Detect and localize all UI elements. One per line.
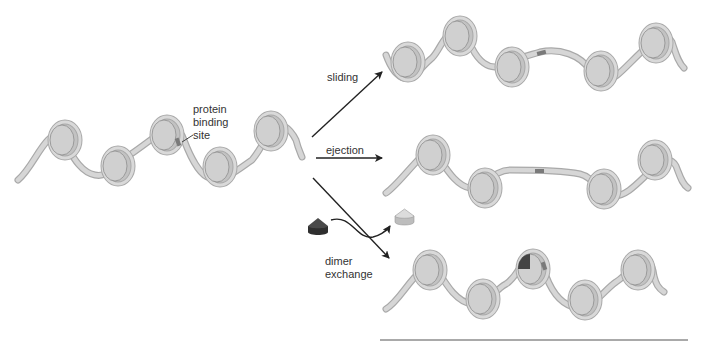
dimer-exchange-arrow [313,178,389,258]
nucleosome [641,25,672,61]
nucleosome [468,281,499,317]
start-chromatin-fiber: protein binding site [18,103,302,185]
nucleosome [205,149,236,185]
exposed-binding-site [535,169,544,173]
nucleosome [393,44,424,80]
nucleosome [103,148,134,184]
label-dimer: dimer [325,255,353,267]
nucleosome [497,49,528,85]
nucleosome [50,122,81,158]
light-histone-dimer-icon [395,209,414,225]
label-sliding: sliding [327,71,358,83]
ejection-result-fiber [386,137,688,207]
annotation-binding: binding [193,116,228,128]
label-exchange: exchange [325,268,373,280]
nucleosome [586,53,617,89]
dark-histone-dimer-icon [308,218,328,235]
nucleosome [570,282,601,318]
label-ejection: ejection [326,144,364,156]
nucleosome [445,18,476,54]
annotation-site: site [193,129,210,141]
nucleosome [256,113,287,149]
nucleosome [152,117,183,153]
sliding-result-fiber [386,18,684,89]
nucleosome [418,137,449,173]
chromatin-remodeling-diagram: protein binding site sliding ejection di… [0,0,701,342]
nucleosome [415,252,446,288]
dimer-exchange-result-fiber [386,251,664,318]
nucleosome [589,171,620,207]
annotation-protein: protein [193,103,227,115]
nucleosome [470,170,501,206]
nucleosome [640,142,671,178]
exchanged-nucleosome [518,251,549,287]
nucleosome [623,252,654,288]
